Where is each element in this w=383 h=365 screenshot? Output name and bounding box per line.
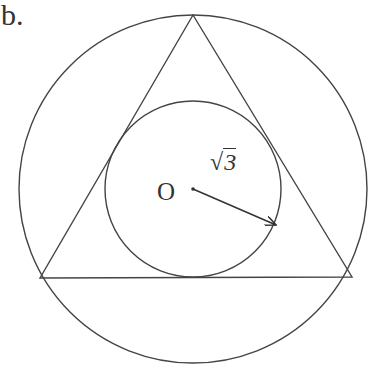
radical-sign: √ [210, 149, 223, 175]
radicand: 3 [223, 148, 236, 175]
part-label: b. [1, 0, 24, 32]
radius-arrow [193, 189, 276, 225]
radius-label: √3 [210, 149, 236, 176]
equilateral-triangle [40, 15, 352, 278]
diagram: b. O √3 [0, 0, 383, 365]
geometry-figure [0, 0, 383, 365]
center-label: O [157, 178, 175, 206]
